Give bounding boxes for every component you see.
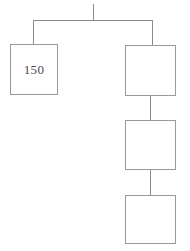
node-150-label: 150 [24, 63, 45, 76]
node-right-bottom[interactable] [125, 195, 176, 244]
node-150[interactable]: 150 [10, 44, 58, 95]
node-right-top[interactable] [125, 45, 176, 96]
diagram-canvas: 150 [0, 0, 190, 251]
node-right-middle[interactable] [125, 120, 176, 170]
